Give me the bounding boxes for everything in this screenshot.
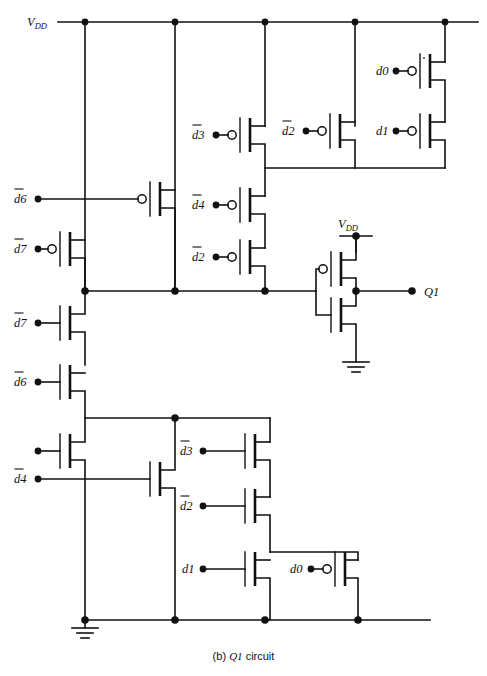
n-d4-gate-label: d4: [14, 472, 27, 486]
n-d1-gate-label: d1: [182, 562, 195, 576]
p-d0-gate-bubble: [408, 67, 416, 75]
n-d2-gate-terminal[interactable]: [200, 503, 207, 510]
figure-caption: (b) Q1 circuit: [0, 650, 487, 662]
transistor-n-d7[interactable]: d7: [14, 291, 85, 365]
transistor-p-d0[interactable]: d0: [376, 54, 445, 122]
p-d3-gate-label: d3: [192, 128, 205, 142]
n-d4-gate-terminal[interactable]: [35, 476, 42, 483]
p-d6-top-gate-terminal[interactable]: [35, 196, 42, 203]
n-d7-gate-terminal[interactable]: [35, 320, 42, 327]
vdd-rail-label: VDD: [27, 15, 48, 31]
transistor-n-d1[interactable]: d1: [182, 552, 270, 620]
ground-rail: [81, 616, 430, 624]
output-net: [352, 287, 416, 295]
transistor-inverter-pmos[interactable]: [316, 236, 356, 291]
ground-symbol-inverter: [343, 362, 369, 372]
p-d3-gate-terminal[interactable]: [213, 132, 220, 139]
gnd-node-b: [171, 616, 179, 624]
transistor-n-d6[interactable]: d6: [14, 365, 85, 418]
gnd-node-d: [354, 616, 362, 624]
n-d6-gate-label: d6: [14, 375, 27, 389]
transistor-p-d7[interactable]: d7: [14, 232, 85, 291]
p-d0-gate-terminal[interactable]: [393, 68, 400, 75]
p-d6-top-gate-label: d6: [14, 192, 27, 206]
internal-node-dot-c: [261, 287, 269, 295]
n-d0-gate-label: d0: [290, 562, 303, 576]
p-d2-top-gate-bubble: [318, 127, 326, 135]
caption-suffix: circuit: [246, 650, 275, 662]
p-d2-top-gate-label: d2: [282, 124, 295, 138]
p-d2-low-gate-bubble: [228, 253, 236, 261]
transistor-inverter-nmos[interactable]: [316, 291, 356, 362]
inverter-vdd-label: VDD: [338, 217, 359, 233]
p-d4-gate-terminal[interactable]: [213, 202, 220, 209]
q1-output-terminal[interactable]: [408, 287, 416, 295]
n-d7-gate-label: d7: [14, 316, 27, 330]
p-d2-top-gate-terminal[interactable]: [303, 128, 310, 135]
transistor-p-d3[interactable]: d3: [192, 118, 265, 168]
figure-page: VDD d0: [0, 0, 487, 676]
vdd-rail: [58, 19, 478, 26]
p-d2-low-gate-label: d2: [192, 250, 205, 264]
transistor-p-d4[interactable]: d4: [192, 188, 265, 248]
n-d6-gate-terminal[interactable]: [35, 379, 42, 386]
inverter-pmos-gate-bubble: [319, 265, 327, 273]
internal-node-dot-b: [171, 287, 179, 295]
p-d4-gate-bubble: [228, 201, 236, 209]
transistor-p-d2-low[interactable]: d2: [192, 240, 265, 291]
n-d0-gate-bubble: [323, 565, 331, 573]
p-d7-gate-bubble: [48, 245, 56, 253]
caption-prefix: (b): [213, 650, 226, 662]
p-d7-gate-label: d7: [14, 242, 27, 256]
n-d2-gate-label: d2: [180, 499, 193, 513]
p-d1-gate-terminal[interactable]: [393, 128, 400, 135]
n-d1-gate-terminal[interactable]: [200, 566, 207, 573]
internal-node-row: [81, 287, 316, 295]
p-d2-low-gate-terminal[interactable]: [213, 254, 220, 261]
q1-circuit-schematic: VDD d0: [0, 0, 487, 676]
transistor-p-d6-top[interactable]: d6: [14, 182, 175, 291]
pulldown-bus-418: [85, 414, 270, 422]
transistor-n-unlabeled[interactable]: [35, 418, 85, 620]
p-d1-gate-bubble: [408, 127, 416, 135]
output-label: Q1: [424, 285, 439, 299]
n-d0-gate-terminal[interactable]: [308, 566, 315, 573]
transistor-n-d2[interactable]: d2: [180, 489, 270, 552]
p-d0-gate-label: d0: [376, 64, 389, 78]
transistor-p-d2-top[interactable]: d2: [282, 114, 355, 168]
transistor-p-d1[interactable]: d1: [376, 114, 445, 168]
transistor-n-d3[interactable]: d3: [180, 434, 270, 497]
p-d4-gate-label: d4: [192, 198, 205, 212]
n-d3-gate-label: d3: [180, 444, 193, 458]
caption-signal: Q1: [229, 650, 242, 662]
p-d7-gate-terminal[interactable]: [35, 246, 42, 253]
transistor-n-d0[interactable]: d0: [290, 552, 358, 620]
n-d3-gate-terminal[interactable]: [200, 448, 207, 455]
p-d1-gate-label: d1: [376, 124, 389, 138]
gnd-node-c: [261, 616, 269, 624]
p-d6-top-gate-bubble: [138, 195, 146, 203]
ground-symbol-main: [72, 620, 98, 638]
p-d3-gate-bubble: [228, 131, 236, 139]
n-unlabeled-gate-terminal[interactable]: [35, 448, 42, 455]
